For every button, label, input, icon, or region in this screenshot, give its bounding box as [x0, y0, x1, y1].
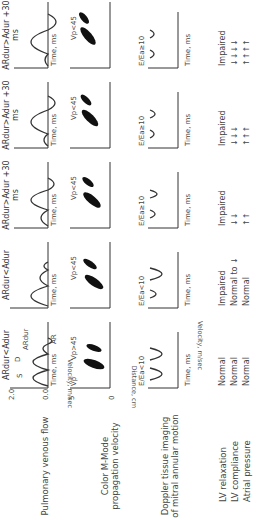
atrial-pressure-value: ↑↑↑ [242, 126, 252, 146]
column-restrictive-reversible: ARdur>Adur +30 ms Time, ms Vp<45 E/Ea≥10… [0, 80, 270, 160]
pv-time-label: Time, ms [50, 354, 58, 386]
cmm-threshold: Vp<45 [70, 176, 78, 200]
dti-waveform [148, 328, 183, 388]
lv-compliance-value: ↓↓ [230, 213, 240, 226]
lv-compliance-value: ↓↓↓ [230, 126, 240, 146]
atrial-pressure-value: ↑↑ [242, 213, 252, 226]
cmm-vp-label: Vp [70, 377, 78, 386]
cmm-ytick-bottom: 0 [108, 396, 116, 400]
lv-relaxation-value: Impaired [218, 271, 228, 306]
pv-time-label: Time, ms [50, 274, 58, 306]
atrial-pressure-value: ↑↑↑↑ [242, 39, 252, 66]
dti-waveform [148, 248, 183, 308]
cmm-ytick-top: 5 [68, 396, 76, 400]
column-restrictive-irreversible: ARdur>Adur +30 ms Time, ms Vp<45 E/Ea≥10… [0, 0, 270, 80]
column-impaired-relaxation: ARdur<Adur Time, ms Vp<45 E/Ea<10 Time, … [0, 240, 270, 320]
lv-compliance-value: Normal to ↓ [230, 257, 240, 306]
lv-relaxation-value: Normal [218, 357, 228, 386]
dti-time-label: Time, ms [184, 274, 192, 306]
lv-compliance-value: ↓↓↓↓ [230, 39, 240, 66]
dti-waveform [148, 168, 183, 228]
row-label-color-m-mode: Color M-Mode propagation velocity [100, 412, 120, 520]
dti-time-label: Time, ms [184, 354, 192, 386]
dti-ratio: E/Ea≥10 [138, 196, 146, 226]
dti-ratio: E/Ea<10 [138, 276, 146, 306]
pv-time-label: Time, ms [50, 34, 58, 66]
dti-waveform [148, 8, 183, 68]
lv-relaxation-value: Impaired [218, 31, 228, 66]
pv-ytick-bottom: 0.0 [42, 389, 50, 400]
column-normal: ARdur<Adur 2.0 0.0 S D ARdur AR Time, ms… [0, 320, 270, 400]
dti-ratio: E/Ea≥10 [138, 36, 146, 66]
pv-ardur-label: ARdur [22, 329, 30, 350]
row-label-doppler-tissue-imaging: Doppler tissue imaging of mitral annular… [160, 412, 180, 520]
cmm-threshold: Vp>45 [70, 336, 78, 360]
pv-ytick-top: 2.0 [8, 389, 16, 400]
pv-time-label: Time, ms [50, 114, 58, 146]
row-label-atrial-pressure: Atrial pressure [242, 394, 252, 502]
row-label-pulmonary-venous-flow: Pulmonary venous flow [40, 412, 50, 520]
dti-time-label: Time, ms [184, 194, 192, 226]
row-label-lv-relaxation: LV relaxation [218, 394, 228, 502]
dti-ratio: E/Ea<10 [138, 356, 146, 386]
cmm-threshold: Vp<45 [70, 256, 78, 280]
dti-time-label: Time, ms [184, 34, 192, 66]
pv-time-label: Time, ms [50, 194, 58, 226]
dti-time-label: Time, ms [184, 114, 192, 146]
cmm-threshold: Vp<45 [70, 96, 78, 120]
atrial-pressure-value: Normal [242, 277, 252, 306]
column-pseudonormal: ARdur>Adur +30 ms Time, ms Vp<45 E/Ea≥10… [0, 160, 270, 240]
lv-relaxation-value: Impaired [218, 111, 228, 146]
diastolic-function-diagram: Pulmonary venous flow Color M-Mode propa… [0, 0, 270, 520]
pv-waveform [10, 238, 55, 308]
dti-ratio: E/Ea≥10 [138, 116, 146, 146]
pv-s-label: S [16, 374, 24, 378]
atrial-pressure-value: Normal [242, 357, 252, 386]
dti-waveform [148, 88, 183, 148]
lv-compliance-value: Normal [230, 357, 240, 386]
cmm-threshold: Vp<45 [70, 16, 78, 40]
row-label-lv-compliance: LV compliance [230, 394, 240, 502]
lv-relaxation-value: Impaired [218, 191, 228, 226]
pv-d-label: D [14, 357, 22, 362]
pv-ar-label: AR [50, 334, 58, 344]
